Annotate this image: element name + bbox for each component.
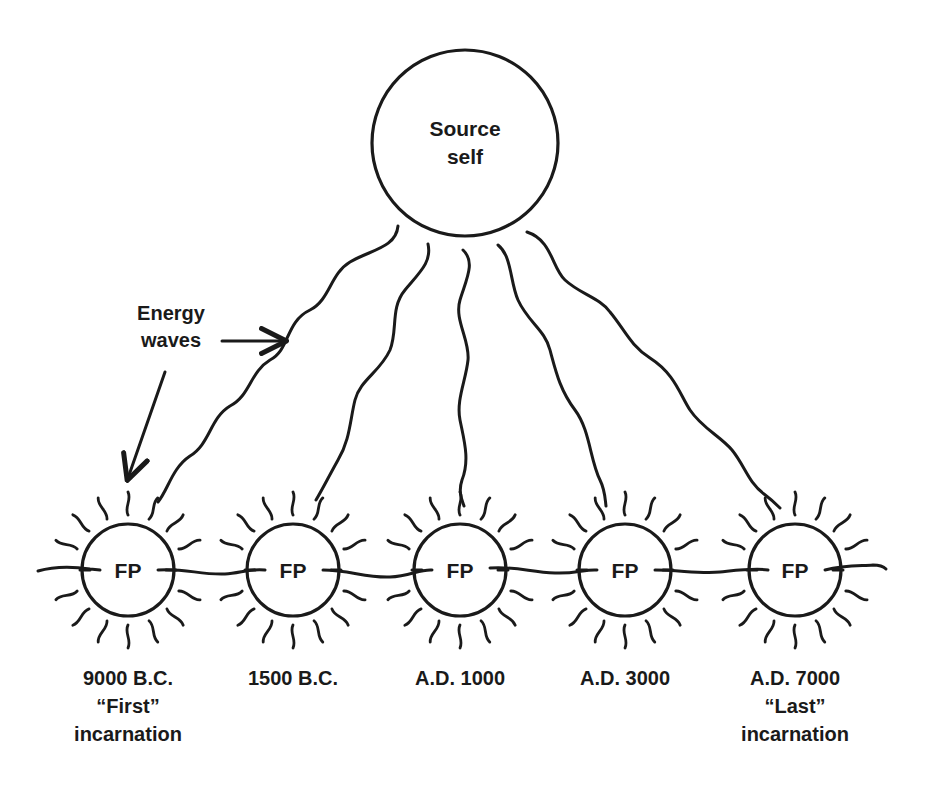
energy-ray [73,515,89,531]
annotation-line2: waves [140,329,201,351]
energy-ray [238,609,254,625]
fp-caption-line: A.D. 7000 [750,667,840,689]
energy-ray [167,515,183,531]
energy-ray [388,540,409,549]
energy-ray [238,515,254,531]
energy-ray [56,591,77,600]
energy-ray [73,609,89,625]
energy-ray [664,515,680,531]
fp-label: FP [782,559,809,582]
energy-ray [624,625,626,648]
energy-ray [511,540,532,549]
reincarnation-diagram: Source self FPFPFPFPFP Energy waves 9000… [0,0,934,792]
energy-ray [794,492,796,515]
energy-ray [846,540,867,549]
energy-ray [149,498,158,519]
energy-ray [344,540,365,549]
energy-ray [740,515,756,531]
energy-ray [459,625,461,648]
energy-ray [405,609,421,625]
energy-ray [221,540,242,549]
fp-caption-line: “First” [96,695,159,717]
fp-caption-line: incarnation [74,723,182,745]
energy-ray [664,609,680,625]
fp-captions: 9000 B.C.“First”incarnation1500 B.C.A.D.… [74,667,849,745]
energy-ray [499,609,515,625]
energy-ray [292,492,294,515]
energy-ray [595,621,604,642]
energy-ray [723,540,744,549]
energy-ray [332,609,348,625]
annotation-line1: Energy [137,302,206,324]
fp-caption-line: incarnation [741,723,849,745]
energy-ray [98,621,107,642]
energy-ray [314,621,323,642]
fp-caption-line: A.D. 1000 [415,667,505,689]
energy-wave-4 [498,245,606,506]
energy-ray [388,591,409,600]
energy-ray [553,591,574,600]
source-label-line1: Source [429,117,500,140]
energy-ray [344,591,365,600]
energy-ray [481,498,490,519]
energy-ray [332,515,348,531]
energy-ray [430,498,439,519]
energy-ray [459,492,461,515]
energy-ray [676,540,697,549]
energy-ray [56,540,77,549]
energy-ray [553,540,574,549]
energy-ray [794,625,796,648]
energy-wave-5 [527,232,780,508]
energy-ray [646,621,655,642]
energy-ray [624,492,626,515]
energy-ray [179,540,200,549]
energy-waves [158,226,780,508]
energy-ray [646,498,655,519]
energy-ray [263,498,272,519]
energy-ray [816,498,825,519]
fp-caption-line: 9000 B.C. [83,667,173,689]
energy-ray [816,621,825,642]
energy-ray [430,621,439,642]
energy-ray [221,591,242,600]
energy-ray [740,609,756,625]
fp-caption-line: “Last” [764,695,825,717]
energy-ray [834,515,850,531]
energy-ray [127,492,129,515]
energy-ray [127,625,129,648]
energy-ray [846,591,867,600]
fp-label: FP [280,559,307,582]
energy-wave-3 [459,250,470,506]
fp-label: FP [612,559,639,582]
energy-ray [292,625,294,648]
energy-ray [570,515,586,531]
energy-ray [595,498,604,519]
energy-ray [676,591,697,600]
energy-ray [834,609,850,625]
fp-caption-line: 1500 B.C. [248,667,338,689]
fp-caption-line: A.D. 3000 [580,667,670,689]
energy-ray [511,591,532,600]
energy-ray [149,621,158,642]
source-self-circle [372,50,558,236]
fp-label: FP [115,559,142,582]
energy-ray [179,591,200,600]
energy-ray [723,591,744,600]
energy-waves-annotation: Energy waves [128,302,284,478]
energy-ray [405,515,421,531]
energy-ray [167,609,183,625]
fp-node: FP [388,492,532,648]
energy-ray [481,621,490,642]
fp-label: FP [447,559,474,582]
energy-ray [263,621,272,642]
energy-ray [499,515,515,531]
energy-wave-1 [158,226,398,502]
source-self-node: Source self [372,50,558,236]
energy-ray [765,621,774,642]
energy-ray [570,609,586,625]
source-label-line2: self [447,145,484,168]
arrow-to-fp-rays [128,372,165,478]
energy-ray [98,498,107,519]
